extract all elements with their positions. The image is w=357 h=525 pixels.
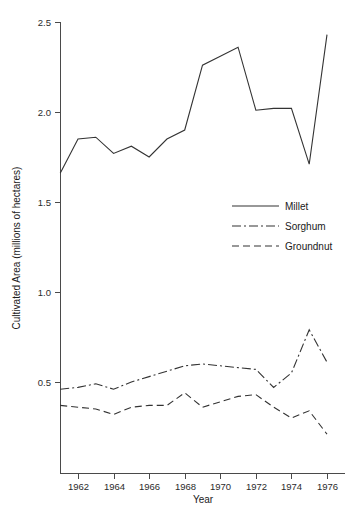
x-axis-title: Year [193, 494, 214, 505]
x-tick-label: 1972 [246, 481, 267, 492]
x-tick-label: 1974 [281, 481, 302, 492]
x-tick-label: 1962 [68, 481, 89, 492]
chart-background [0, 0, 357, 525]
legend-label-millet: Millet [285, 201, 309, 212]
x-tick-label: 1976 [317, 481, 338, 492]
cultivated-area-line-chart: 0.51.01.52.02.5 196219641966196819701972… [0, 0, 357, 525]
y-tick-label: 1.5 [38, 197, 51, 208]
x-tick-label: 1970 [210, 481, 231, 492]
y-tick-label: 0.5 [38, 377, 51, 388]
x-tick-label: 1966 [139, 481, 160, 492]
legend-label-sorghum: Sorghum [285, 221, 326, 232]
y-tick-label: 1.0 [38, 287, 51, 298]
legend-label-groundnut: Groundnut [285, 241, 332, 252]
y-tick-label: 2.0 [38, 107, 51, 118]
y-tick-label: 2.5 [38, 17, 51, 28]
x-tick-label: 1968 [175, 481, 196, 492]
y-axis-title: Cultivated Area (millions of hectares) [11, 167, 22, 330]
x-tick-label: 1964 [104, 481, 125, 492]
